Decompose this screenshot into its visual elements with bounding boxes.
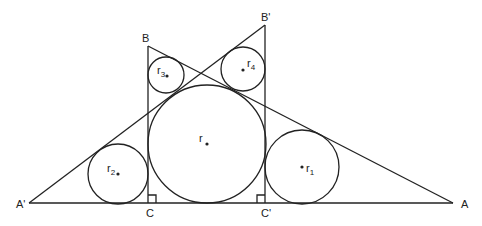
label-r2: r2	[107, 162, 116, 177]
label-vertex-c: C	[146, 207, 154, 219]
center-dot-r1	[300, 165, 303, 168]
label-vertex-a-prime: A'	[16, 198, 25, 210]
center-dot-r2	[116, 172, 119, 175]
center-dot-r3	[165, 74, 168, 77]
label-r4: r4	[247, 57, 256, 72]
label-vertex-a: A	[461, 198, 469, 210]
label-r: r	[199, 132, 203, 144]
label-vertex-b-prime: B'	[261, 11, 270, 23]
label-vertex-b: B	[142, 32, 149, 44]
right-angle-mark-c	[148, 195, 156, 203]
geometry-diagram: r r1 r2 r3 r4 B B' A' A C C'	[0, 0, 482, 226]
center-dot-r4	[241, 68, 244, 71]
label-r3: r3	[157, 64, 166, 79]
label-vertex-c-prime: C'	[261, 207, 271, 219]
center-dot-r	[205, 142, 208, 145]
hypotenuse-ab	[148, 46, 453, 203]
label-r1: r1	[306, 162, 315, 177]
right-angle-mark-c-prime	[257, 195, 265, 203]
